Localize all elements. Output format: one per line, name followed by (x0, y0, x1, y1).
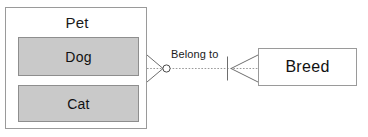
cardinality-zero-circle (163, 65, 170, 72)
er-diagram-canvas: Pet Dog Cat Breed Belong to (0, 0, 368, 137)
relationship-label: Belong to (171, 48, 218, 61)
relationship-connector[interactable] (0, 0, 368, 137)
